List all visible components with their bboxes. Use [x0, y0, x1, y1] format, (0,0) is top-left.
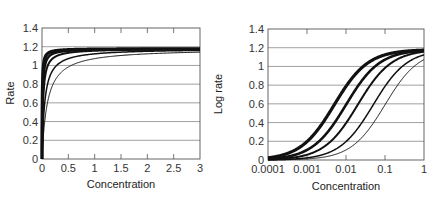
- x-tick-label: 0.0001: [251, 163, 285, 175]
- figure: 00.20.40.60.811.21.400.511.522.53 00.20.…: [0, 0, 434, 202]
- x-tick-label: 0.01: [335, 163, 356, 175]
- y-tick-label: 1.2: [23, 41, 38, 53]
- series-line-5: [268, 60, 424, 160]
- left-chart-rate-vs-concentration: 00.20.40.60.811.21.400.511.522.53: [23, 22, 203, 174]
- x-tick-label: 2.5: [166, 162, 181, 174]
- x-tick-label: 1: [421, 163, 427, 175]
- x-tick-label: 0.5: [61, 162, 76, 174]
- series-line-4: [268, 55, 424, 160]
- x-tick-label: 2: [144, 162, 150, 174]
- left-y-axis-label: Rate: [4, 81, 16, 104]
- left-x-axis-label: Concentration: [87, 178, 156, 190]
- y-tick-label: 0.6: [249, 98, 264, 110]
- y-tick-label: 1.4: [23, 22, 38, 34]
- y-tick-label: 1.2: [249, 42, 264, 54]
- x-tick-label: 0.001: [293, 163, 321, 175]
- y-tick-label: 0.6: [23, 97, 38, 109]
- y-tick-label: 0.2: [23, 134, 38, 146]
- y-tick-label: 1: [258, 60, 264, 72]
- right-x-axis-label: Concentration: [312, 180, 381, 192]
- y-tick-label: 0.8: [249, 79, 264, 91]
- x-tick-label: 0: [39, 162, 45, 174]
- right-chart-log-rate-vs-log-concentration: 00.20.40.60.811.21.40.00010.0010.010.11: [249, 23, 427, 175]
- y-tick-label: 0: [32, 153, 38, 165]
- y-tick-label: 1: [32, 59, 38, 71]
- x-tick-label: 1: [92, 162, 98, 174]
- series-line-4: [42, 50, 200, 159]
- right-y-axis-label: Log rate: [212, 74, 224, 114]
- y-tick-label: 0.4: [249, 117, 264, 129]
- x-tick-label: 3: [197, 162, 203, 174]
- series-line-5: [42, 52, 200, 159]
- y-tick-label: 0.8: [23, 78, 38, 90]
- y-tick-label: 0.2: [249, 135, 264, 147]
- y-tick-label: 0.4: [23, 116, 38, 128]
- plot-frame: [268, 29, 424, 160]
- y-tick-label: 1.4: [249, 23, 264, 35]
- x-tick-label: 0.1: [377, 163, 392, 175]
- x-tick-label: 1.5: [113, 162, 128, 174]
